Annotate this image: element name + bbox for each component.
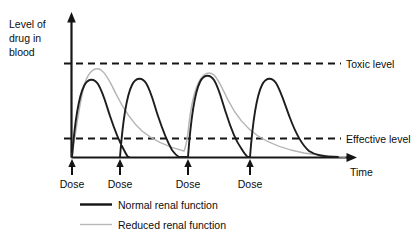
x-axis-label: Time [350, 166, 373, 178]
legend-label-normal: Normal renal function [118, 199, 218, 211]
dose-marker-1: Dose [60, 159, 85, 190]
dose-label-3: Dose [176, 178, 201, 190]
legend-label-reduced: Reduced renal function [118, 219, 226, 231]
y-axis-label-line-2: drug in [9, 32, 41, 44]
legend-entry-reduced: Reduced renal function [80, 219, 226, 231]
effective-level-label: Effective level [346, 133, 411, 145]
dose-label-1: Dose [60, 178, 85, 190]
y-axis-arrowhead [67, 12, 76, 23]
dose-label-4: Dose [238, 178, 263, 190]
y-axis-label-line-1: Level of [9, 18, 46, 30]
dose-label-2: Dose [108, 178, 133, 190]
dose-marker-2: Dose [108, 159, 133, 190]
toxic-level-label: Toxic level [346, 58, 394, 70]
x-axis-arrowhead [347, 153, 358, 162]
legend-entry-normal: Normal renal function [80, 199, 218, 211]
series-normal-renal-function [72, 76, 338, 157]
pharmacokinetics-chart: Level of drug in blood Time Toxic level … [0, 0, 417, 242]
dose-marker-3: Dose [176, 159, 201, 190]
dose-marker-4: Dose [238, 159, 263, 190]
chart-legend: Normal renal function Reduced renal func… [80, 199, 226, 231]
toxic-level-threshold: Toxic level [64, 58, 394, 70]
y-axis-label-line-3: blood [9, 46, 35, 58]
series-reduced-renal-function [72, 69, 345, 157]
chart-canvas: Level of drug in blood Time Toxic level … [0, 0, 417, 242]
